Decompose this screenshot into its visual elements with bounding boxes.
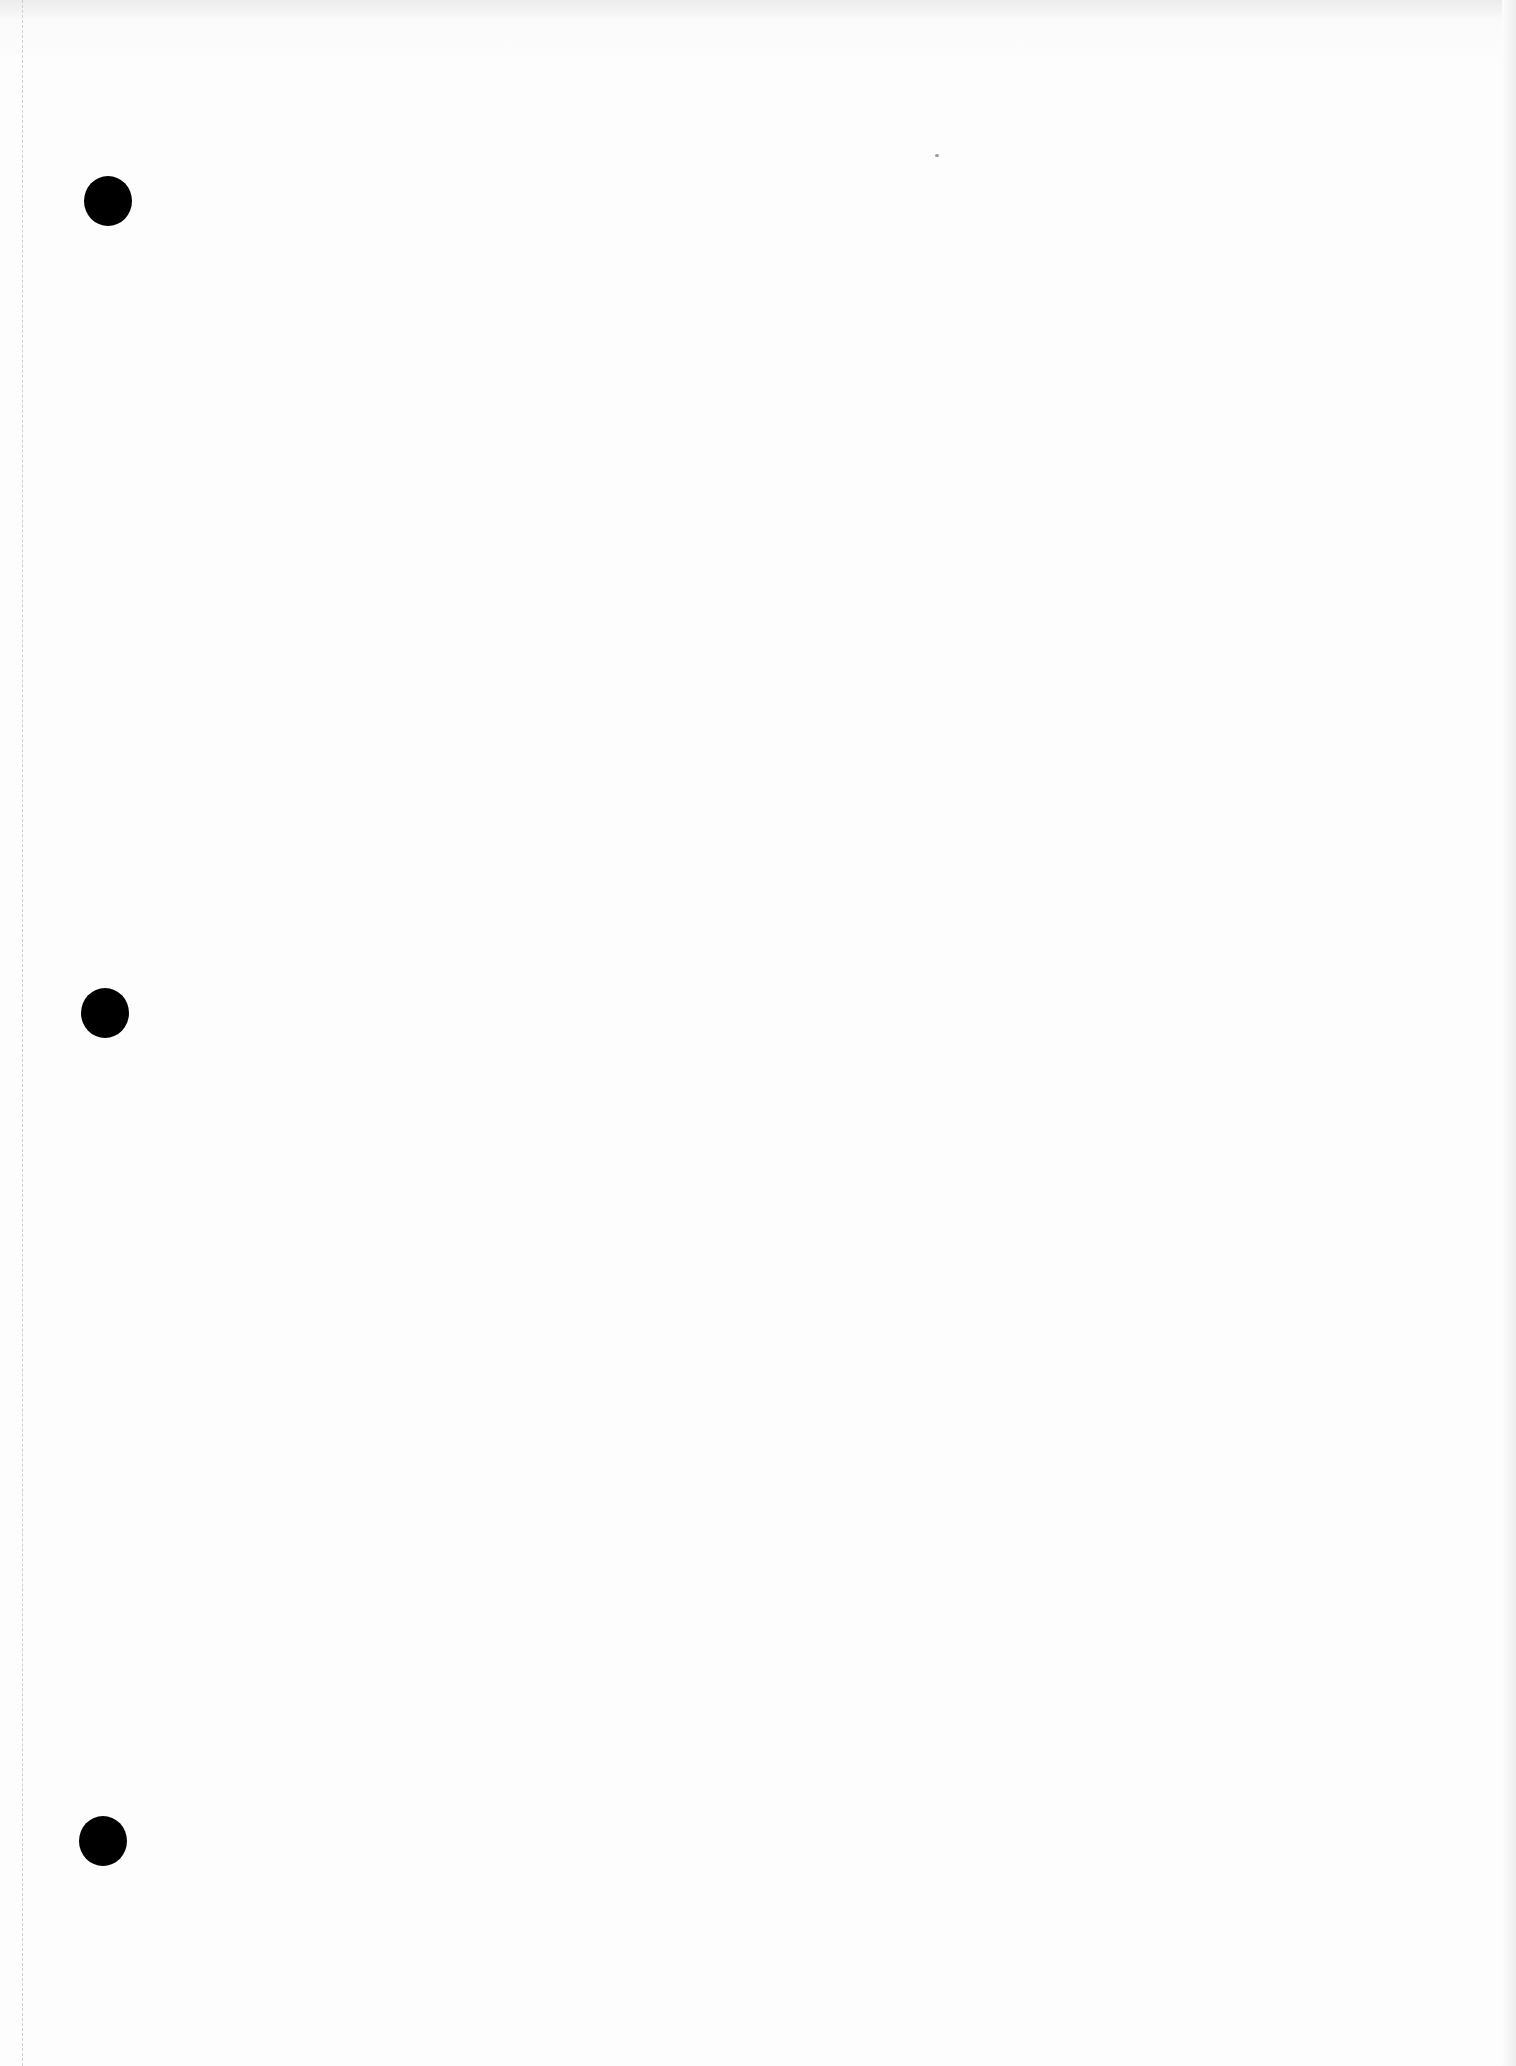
scan-speck [935, 154, 939, 157]
punch-hole-bottom [79, 1816, 127, 1866]
right-page-edge [1502, 0, 1516, 2066]
left-margin-line [22, 0, 24, 2066]
punch-hole-top [84, 176, 132, 226]
blank-page [0, 0, 1516, 2066]
punch-hole-middle [81, 988, 129, 1038]
